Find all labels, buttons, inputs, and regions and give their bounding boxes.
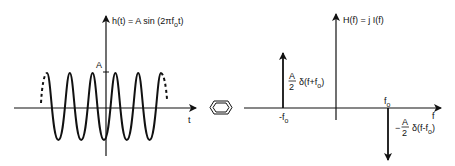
svg-text:2: 2 xyxy=(289,82,294,92)
frequency-domain-plot: H(f) = j I(f) f fo -fo A 2 δ(f+fo) − A 2… xyxy=(244,14,441,160)
sine-dashed-start xyxy=(41,73,47,103)
left-impulse-label: A 2 δ(f+fo) xyxy=(289,71,325,92)
frequency-function-label: H(f) = j I(f) xyxy=(343,15,384,25)
fourier-pair-diagram: h(t) = A sin (2πfot) A t H(f) = j I(f) f… xyxy=(0,0,455,166)
svg-text:δ(f-fo): δ(f-fo) xyxy=(412,123,435,135)
svg-text:A: A xyxy=(402,117,408,127)
right-impulse-label: − A 2 δ(f-fo) xyxy=(395,117,435,138)
svg-text:A: A xyxy=(289,71,295,81)
positive-frequency-label: fo xyxy=(384,96,391,108)
time-axis-label: t xyxy=(188,115,191,125)
time-function-label: h(t) = A sin (2πfot) xyxy=(112,16,183,28)
amplitude-label: A xyxy=(96,60,102,70)
negative-frequency-label: -fo xyxy=(279,112,289,124)
sine-wave xyxy=(47,73,161,140)
frequency-axis-label: f xyxy=(432,111,435,121)
svg-text:δ(f+fo): δ(f+fo) xyxy=(299,77,324,89)
sine-dashed-end xyxy=(161,73,167,99)
svg-text:2: 2 xyxy=(402,128,407,138)
svg-text:−: − xyxy=(395,123,400,133)
fourier-pair-hexagon-icon xyxy=(210,101,232,114)
time-domain-plot: h(t) = A sin (2πfot) A t xyxy=(14,16,196,156)
